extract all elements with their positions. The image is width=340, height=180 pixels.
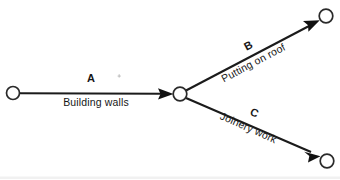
- edge-c-code: C: [249, 105, 261, 119]
- edge-b-arrowhead: [303, 20, 320, 32]
- edge-b-code: B: [242, 38, 255, 52]
- start-node[interactable]: [7, 87, 20, 100]
- edge-a-line: [20, 93, 162, 94]
- scan-speck-icon: [118, 74, 121, 77]
- top-right-node[interactable]: [319, 9, 333, 23]
- diagram-canvas: A Building walls B Putting on roof C Joi…: [0, 0, 340, 179]
- network-diagram: A Building walls B Putting on roof C Joi…: [0, 0, 340, 179]
- scan-edge-smudge: [0, 177, 340, 180]
- edge-a-label: Building walls: [63, 96, 129, 108]
- middle-node[interactable]: [173, 87, 187, 101]
- edge-c-arrowhead: [304, 152, 320, 163]
- bottom-right-node[interactable]: [320, 154, 334, 168]
- edge-a-code: A: [87, 72, 95, 84]
